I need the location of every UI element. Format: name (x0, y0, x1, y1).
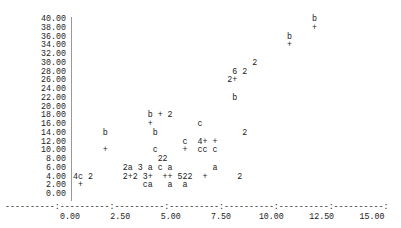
x-axis-line: ----------:----------:----------:-------… (5, 202, 388, 211)
x-tick-label: 0.00 (60, 212, 80, 221)
plot-row-points: + c (73, 119, 202, 128)
y-tick-label: 24.00 (6, 84, 66, 93)
plot-row-points: c 4+ + (73, 137, 217, 146)
y-axis-line (71, 17, 72, 201)
y-tick-label: 40.00 (6, 14, 66, 23)
y-tick-label: 4.00 (6, 172, 66, 181)
plot-row-points: b (73, 32, 292, 41)
y-tick-label: 38.00 (6, 23, 66, 32)
plot-row-points: b b 2 (73, 128, 247, 137)
plot-row-points: 2 (73, 58, 257, 67)
plot-row-points: 6 2 (73, 67, 247, 76)
y-tick-label: 18.00 (6, 110, 66, 119)
plot-row-points: + c + cc c (73, 145, 217, 154)
y-tick-label: 2.00 (6, 180, 66, 189)
y-tick-label: 26.00 (6, 75, 66, 84)
y-tick-label: 34.00 (6, 40, 66, 49)
y-tick-label: 6.00 (6, 163, 66, 172)
y-tick-label: 22.00 (6, 93, 66, 102)
y-tick-label: 36.00 (6, 32, 66, 41)
x-tick-label: 10.00 (259, 212, 284, 221)
plot-row-points: b (73, 93, 237, 102)
y-tick-label: 0.00 (6, 189, 66, 198)
plot-row-points: b (73, 14, 317, 23)
plot-row-points: + (73, 23, 317, 32)
x-tick-label: 12.50 (309, 212, 334, 221)
x-tick-label: 15.00 (360, 212, 385, 221)
y-tick-label: 30.00 (6, 58, 66, 67)
plot-row-points: 2a 3 a c a a (73, 163, 217, 172)
x-tick-label: 5.00 (161, 212, 181, 221)
y-tick-label: 8.00 (6, 154, 66, 163)
plot-row-points: + (73, 40, 292, 49)
x-tick-label: 7.50 (211, 212, 231, 221)
y-tick-label: 16.00 (6, 119, 66, 128)
y-tick-label: 32.00 (6, 49, 66, 58)
plot-row-points: b + 2 (73, 110, 173, 119)
y-tick-label: 28.00 (6, 67, 66, 76)
plot-row-points: + ca a a (73, 180, 188, 189)
plot-row-points: 4c 2 2+2 3+ ++ 522 + 2 (73, 172, 242, 181)
y-tick-label: 10.00 (6, 145, 66, 154)
plot-row-points: 2+ (73, 75, 237, 84)
y-tick-label: 20.00 (6, 102, 66, 111)
y-tick-label: 12.00 (6, 137, 66, 146)
plot-row-points: 22 (73, 154, 168, 163)
y-tick-label: 14.00 (6, 128, 66, 137)
x-tick-label: 2.50 (110, 212, 130, 221)
